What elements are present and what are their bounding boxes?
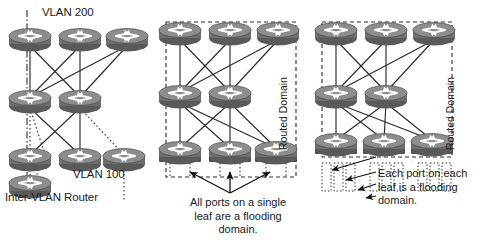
vlan-200-label: VLAN 200 xyxy=(42,6,94,18)
leaf-router[interactable] xyxy=(9,149,51,172)
spine-router[interactable] xyxy=(365,23,407,46)
routed-domain-label: Routed Domain xyxy=(444,77,456,150)
port-flooding-caption: Each port on each leaf is a flooding dom… xyxy=(378,167,488,208)
caption-line: domain. xyxy=(158,223,318,237)
caption-line: domain. xyxy=(378,194,488,208)
routed-domain-label: Routed Domain xyxy=(277,77,289,150)
caption-line: All ports on a single xyxy=(158,196,318,210)
leaf-switch[interactable] xyxy=(209,142,251,165)
flooding-domain-markers xyxy=(170,163,286,176)
leaf-flooding-panel: Routed Domain All ports on a single leaf… xyxy=(158,0,318,242)
spine-router[interactable] xyxy=(257,23,299,46)
caption-line: Each port on each xyxy=(378,167,488,181)
spine-router[interactable] xyxy=(159,23,201,46)
aggregation-router[interactable] xyxy=(159,86,201,109)
spine-router[interactable] xyxy=(315,23,357,46)
vlan-panel: VLAN 200 VLAN 100 Inter-VLAN Router xyxy=(0,0,158,242)
inter-vlan-router-label: Inter-VLAN Router xyxy=(5,191,98,203)
vlan-panel-canvas xyxy=(0,0,158,242)
leaf-switch[interactable] xyxy=(255,142,297,165)
spine-agg-links xyxy=(30,46,127,97)
aggregation-router[interactable] xyxy=(365,86,407,109)
spine-router[interactable] xyxy=(59,29,101,52)
leaf-flooding-caption: All ports on a single leaf are a floodin… xyxy=(158,196,318,237)
spine-router[interactable] xyxy=(413,23,455,46)
spine-agg-links xyxy=(180,40,278,92)
spine-router[interactable] xyxy=(106,29,148,52)
port-flooding-panel: Routed Domain Each port on each leaf is … xyxy=(318,0,488,242)
aggregation-router[interactable] xyxy=(59,91,101,114)
aggregation-router[interactable] xyxy=(209,86,251,109)
leaf-switch[interactable] xyxy=(159,142,201,165)
spine-agg-links xyxy=(336,40,434,92)
leaf-switch[interactable] xyxy=(315,134,357,157)
aggregation-router[interactable] xyxy=(9,91,51,114)
spine-router[interactable] xyxy=(209,23,251,46)
caption-line: leaf are a flooding xyxy=(158,210,318,224)
flooding-domain-arrows xyxy=(190,172,270,193)
spine-router[interactable] xyxy=(9,29,51,52)
vlan-100-label: VLAN 100 xyxy=(73,168,125,180)
aggregation-router[interactable] xyxy=(315,86,357,109)
caption-line: leaf is a flooding xyxy=(378,181,488,195)
network-topology-figure: VLAN 200 VLAN 100 Inter-VLAN Router xyxy=(0,0,488,242)
leaf-switch[interactable] xyxy=(363,134,405,157)
